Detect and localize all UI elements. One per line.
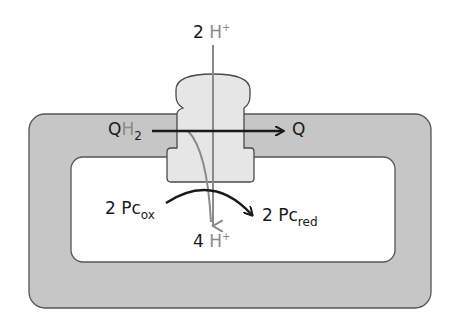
qh2-label: QH2 [108, 121, 142, 138]
plastocyanin: Pc [278, 205, 298, 225]
charge: + [222, 231, 230, 242]
quinol-h: H [121, 119, 134, 139]
coefficient: 2 [193, 22, 204, 42]
plastocyanin: Pc [121, 198, 141, 218]
coefficient: 2 [105, 198, 116, 218]
q-label: Q [292, 121, 305, 138]
pc-ox-label: 2 Pcox [105, 200, 155, 217]
charge: + [222, 22, 230, 33]
red-subscript: red [298, 215, 318, 229]
quinol-q: Q [108, 119, 121, 139]
pc-red-label: 2 Pcred [262, 207, 318, 224]
proton-symbol: H [209, 231, 222, 251]
proton-symbol: H [209, 22, 222, 42]
protein-complex [167, 74, 254, 182]
coefficient: 4 [193, 231, 204, 251]
bottom-proton-label: 4 H+ [193, 233, 230, 250]
diagram-canvas [0, 0, 456, 327]
top-proton-label: 2 H+ [193, 24, 230, 41]
ox-subscript: ox [141, 208, 155, 222]
coefficient: 2 [262, 205, 273, 225]
quinol-subscript: 2 [134, 129, 142, 143]
